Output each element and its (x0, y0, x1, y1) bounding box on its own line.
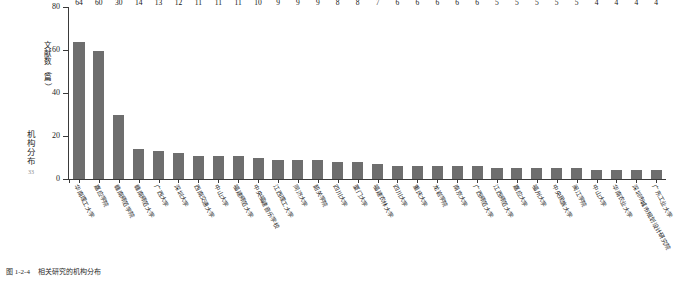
bar-value-label: 6 (427, 0, 447, 8)
bar-slot: 11 (188, 8, 208, 179)
x-axis-tick (178, 179, 179, 183)
bar-value-label: 5 (487, 0, 507, 8)
bar-slot: 4 (626, 8, 646, 179)
x-axis-category-label: 厦门大学 (351, 184, 368, 208)
bar: 4 (651, 170, 662, 179)
bar-value-label: 6 (388, 0, 408, 8)
bar-value-label: 4 (606, 0, 626, 8)
x-axis-tick (69, 179, 70, 183)
bar: 11 (193, 156, 204, 180)
bar-slot: 7 (368, 8, 388, 179)
x-axis-tick (198, 179, 199, 183)
bar-value-label: 60 (89, 0, 109, 8)
bar: 6 (432, 166, 443, 179)
bar: 6 (472, 166, 483, 179)
x-axis-category-label: 南京大学 (451, 184, 468, 208)
x-axis-tick (636, 179, 637, 183)
bar-slot: 5 (547, 8, 567, 179)
bar-slot: 6 (447, 8, 467, 179)
x-axis-tick (358, 179, 359, 183)
figure-caption-text: 相关研究的机构分布 (38, 268, 101, 276)
bar-value-label: 12 (169, 0, 189, 8)
y-axis-tick-label: 20 (52, 131, 60, 140)
x-axis-category-label: 四川大学 (332, 184, 349, 208)
x-axis-category-label: 华南农业大学 (611, 184, 634, 219)
x-axis-category-label: 江西师范大学 (491, 184, 514, 219)
x-axis-category-label: 中山大学 (212, 184, 229, 208)
bar: 13 (153, 151, 164, 179)
x-axis-tick (278, 179, 279, 183)
bar-slot: 4 (606, 8, 626, 179)
y-axis-tick-label: 0 (56, 174, 60, 183)
x-axis-tick (338, 179, 339, 183)
bar-slot: 4 (646, 8, 666, 179)
bar: 12 (173, 153, 184, 179)
bar: 4 (591, 170, 602, 179)
figure-page: 机 构 分 布 33 文 献 数 （ 篇 ） 020406080 6460301… (0, 0, 674, 281)
bar-slot: 8 (328, 8, 348, 179)
bar-slot: 6 (407, 8, 427, 179)
bar-chart-plot-area: 文 献 数 （ 篇 ） 020406080 646030141312111111… (68, 8, 666, 180)
bar-slot: 8 (348, 8, 368, 179)
bar-slot: 60 (89, 8, 109, 179)
x-axis-category-label: 闽江学院 (571, 184, 588, 208)
x-axis-tick (477, 179, 478, 183)
page-number: 33 (20, 169, 42, 175)
bar-value-label: 11 (228, 0, 248, 8)
x-axis-tick (258, 179, 259, 183)
bar-slot: 30 (109, 8, 129, 179)
bar: 8 (352, 162, 363, 179)
x-axis-category-label: 赣南师范学院 (112, 184, 135, 219)
bar-slot: 5 (507, 8, 527, 179)
x-axis-category-label: 福建农林大学 (371, 184, 394, 219)
bar-value-label: 5 (507, 0, 527, 8)
x-axis-tick (497, 179, 498, 183)
marginalia-char: 布 (20, 157, 42, 166)
bar: 11 (213, 156, 224, 180)
bar-slot: 10 (248, 8, 268, 179)
bar: 30 (113, 115, 124, 179)
bar-slot: 9 (308, 8, 328, 179)
bar-slot: 5 (527, 8, 547, 179)
x-axis-category-label: 广西师范大学 (471, 184, 494, 219)
x-axis-category-label: 同济大学 (292, 184, 309, 208)
x-axis-category-label: 深圳市城市规划设计研究院 (631, 184, 672, 251)
x-axis-tick (159, 179, 160, 183)
bar: 5 (511, 168, 522, 179)
bar: 9 (272, 160, 283, 179)
bar-slot: 64 (69, 8, 89, 179)
x-axis-category-label: 福建师范大学 (232, 184, 255, 219)
x-axis-category-label: 中山大学 (591, 184, 608, 208)
bar-slot: 6 (467, 8, 487, 179)
bar-value-label: 8 (348, 0, 368, 8)
x-axis-category-label: 嘉应学院 (92, 184, 109, 208)
bar: 10 (253, 158, 264, 179)
x-axis-category-label: 嘉应大学 (511, 184, 528, 208)
x-axis-tick (397, 179, 398, 183)
bar-slot: 4 (587, 8, 607, 179)
bar: 11 (233, 156, 244, 180)
bar-value-label: 11 (188, 0, 208, 8)
figure-caption: 图 1-2-4 相关研究的机构分布 (6, 266, 101, 276)
y-axis-label-char: （ (43, 63, 51, 77)
x-axis-tick (139, 179, 140, 183)
bar: 14 (133, 149, 144, 179)
x-axis-category-label: 赣南师范大学 (132, 184, 155, 219)
bar: 5 (531, 168, 542, 179)
x-axis-tick (577, 179, 578, 183)
bar: 4 (631, 170, 642, 179)
bar-value-label: 6 (407, 0, 427, 8)
bar-slot: 11 (228, 8, 248, 179)
bar: 5 (491, 168, 502, 179)
bar-slot: 6 (427, 8, 447, 179)
bar-value-label: 5 (547, 0, 567, 8)
bar-slot: 14 (129, 8, 149, 179)
bar-value-label: 5 (567, 0, 587, 8)
bar-value-label: 9 (308, 0, 328, 8)
bar: 60 (93, 51, 104, 179)
bar-value-label: 4 (587, 0, 607, 8)
figure-caption-number: 图 1-2-4 (6, 268, 30, 276)
x-axis-tick (318, 179, 319, 183)
x-axis-tick (99, 179, 100, 183)
bar-value-label: 4 (646, 0, 666, 8)
